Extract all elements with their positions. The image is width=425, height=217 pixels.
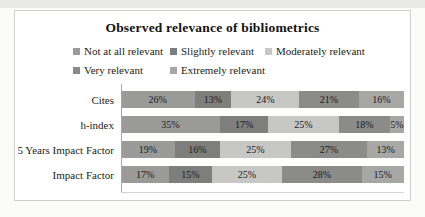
bar-track: 26%13%24%21%16% [121,91,404,108]
bar-segment: 17% [220,116,268,133]
legend-spacer [265,64,410,76]
bar-track: 17%15%25%28%15% [121,166,404,183]
baseline [121,192,404,193]
bar-segment: 19% [121,141,175,158]
legend-swatch-icon [170,67,177,74]
bar-segment: 24% [231,91,299,108]
legend-item: Slightly relevant [170,45,265,57]
bar-segment: 25% [268,116,339,133]
bar-segment: 35% [121,116,220,133]
legend-label: Not at all relevant [84,45,163,57]
bar-segment: 25% [212,166,283,183]
bar-rows: Cites26%13%24%21%16%h-index35%17%25%18%5… [15,87,404,187]
page-background-strip [0,0,425,8]
bar-segment: 5% [390,116,404,133]
bar-segment: 16% [359,91,404,108]
legend-item: Moderately relevant [265,45,410,57]
legend-label: Slightly relevant [181,45,254,57]
bar-row: 5 Years Impact Factor19%16%25%27%13% [15,137,404,162]
legend-item: Extremely relevant [170,64,265,76]
bar-row: Impact Factor17%15%25%28%15% [15,162,404,187]
bar-segment: 28% [282,166,361,183]
category-axis-line [121,84,122,193]
bar-segment: 25% [220,141,291,158]
bar-segment: 16% [175,141,220,158]
legend-swatch-icon [73,48,80,55]
legend-swatch-icon [73,67,80,74]
bar-segment: 27% [291,141,367,158]
legend-item: Very relevant [73,64,170,76]
bar-segment: 26% [121,91,195,108]
category-label: 5 Years Impact Factor [15,144,121,156]
category-label: Cites [15,94,121,106]
bar-row: Cites26%13%24%21%16% [15,87,404,112]
bar-segment: 15% [169,166,211,183]
plot-area: Cites26%13%24%21%16%h-index35%17%25%18%5… [15,87,404,187]
category-label: Impact Factor [15,169,121,181]
chart-title: Observed relevance of bibliometrics [15,20,410,36]
bar-segment: 15% [362,166,404,183]
bar-segment: 18% [339,116,390,133]
category-label: h-index [15,119,121,131]
legend-label: Moderately relevant [276,45,365,57]
bar-segment: 13% [195,91,232,108]
bar-track: 35%17%25%18%5% [121,116,404,133]
legend-label: Extremely relevant [181,64,265,76]
legend-item: Not at all relevant [73,45,170,57]
legend-label: Very relevant [84,64,143,76]
chart-legend: Not at all relevantSlightly relevantMode… [15,45,410,76]
bar-segment: 13% [367,141,404,158]
chart-container: Observed relevance of bibliometrics Not … [14,10,411,201]
bar-track: 19%16%25%27%13% [121,141,404,158]
legend-swatch-icon [170,48,177,55]
bar-segment: 17% [121,166,169,183]
legend-swatch-icon [265,48,272,55]
bar-row: h-index35%17%25%18%5% [15,112,404,137]
bar-segment: 21% [299,91,358,108]
